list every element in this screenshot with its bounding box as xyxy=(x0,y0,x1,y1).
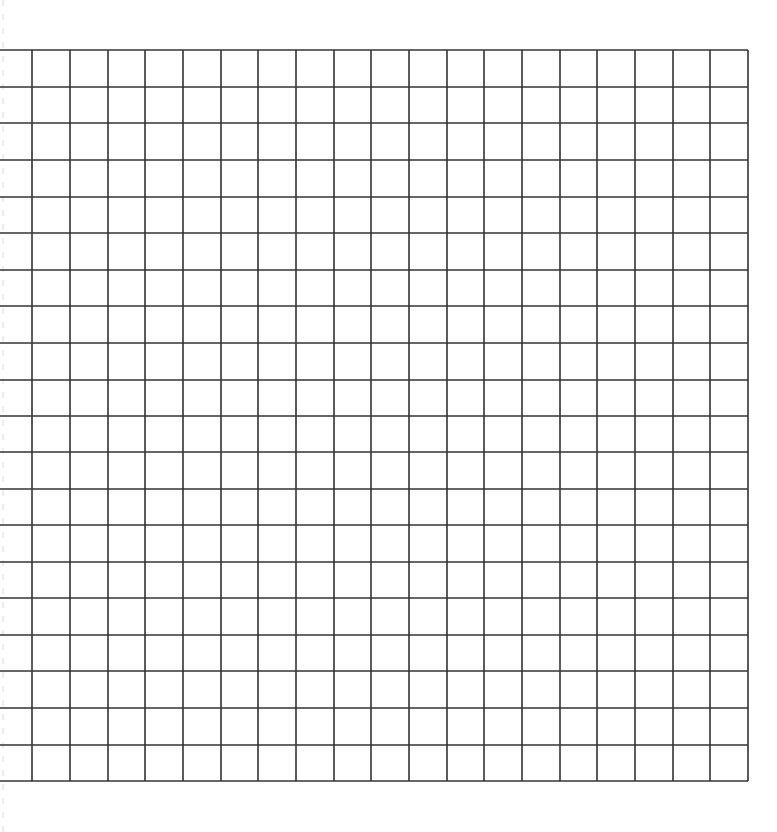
grid-paper xyxy=(0,0,777,832)
